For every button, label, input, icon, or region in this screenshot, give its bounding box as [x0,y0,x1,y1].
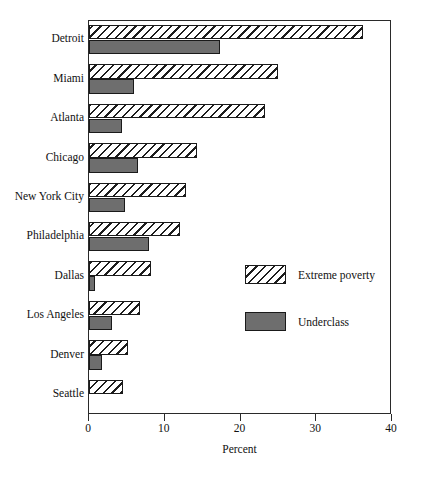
y-axis-label-atlanta: Atlanta [0,111,84,123]
bar-extreme-poverty-new-york-city [89,183,186,198]
x-tick-label-0: 0 [85,422,91,435]
x-tick-10 [164,414,165,421]
bar-extreme-poverty-detroit [89,25,363,40]
y-axis-label-detroit: Detroit [0,32,84,44]
x-tick-label-10: 10 [158,422,170,435]
y-axis-label-denver: Denver [0,348,84,360]
x-tick-0 [88,414,89,421]
bar-underclass-atlanta [89,119,122,134]
x-tick-30 [315,414,316,421]
x-tick-label-40: 40 [385,422,397,435]
x-axis-title: Percent [88,443,391,455]
bar-extreme-poverty-denver [89,340,128,355]
bar-underclass-miami [89,79,134,94]
bar-extreme-poverty-atlanta [89,104,265,119]
bar-underclass-new-york-city [89,198,125,213]
bar-underclass-los-angeles [89,316,112,331]
bar-underclass-denver [89,355,102,370]
plot-area [88,20,391,414]
legend-swatch-underclass [245,312,286,331]
y-axis-labels: DetroitMiamiAtlantaChicagoNew York CityP… [0,20,84,414]
bar-extreme-poverty-philadelphia [89,222,180,237]
legend-label-underclass: Underclass [298,316,349,328]
bar-extreme-poverty-miami [89,64,278,79]
y-axis-label-dallas: Dallas [0,269,84,281]
legend-item-extreme-poverty: Extreme poverty [245,265,375,284]
bar-extreme-poverty-seattle [89,380,123,395]
y-axis-label-los-angeles: Los Angeles [0,308,84,320]
y-axis-label-miami: Miami [0,72,84,84]
bar-underclass-dallas [89,276,95,291]
bar-extreme-poverty-chicago [89,143,197,158]
y-axis-label-new-york-city: New York City [0,190,84,202]
y-axis-label-philadelphia: Philadelphia [0,229,84,241]
legend-label-extreme-poverty: Extreme poverty [298,269,375,281]
legend-item-underclass: Underclass [245,312,349,331]
bar-underclass-philadelphia [89,237,149,252]
bar-extreme-poverty-dallas [89,261,151,276]
bar-extreme-poverty-los-angeles [89,301,140,316]
bar-underclass-chicago [89,158,138,173]
bar-chart: DetroitMiamiAtlantaChicagoNew York CityP… [0,0,424,478]
x-tick-label-30: 30 [310,422,322,435]
legend-swatch-extreme-poverty [245,265,286,284]
x-tick-40 [391,414,392,421]
bar-underclass-detroit [89,40,220,55]
y-axis-label-seattle: Seattle [0,387,84,399]
x-tick-20 [240,414,241,421]
y-axis-label-chicago: Chicago [0,151,84,163]
x-axis-ticks: 010203040 [88,414,391,424]
x-tick-label-20: 20 [234,422,246,435]
